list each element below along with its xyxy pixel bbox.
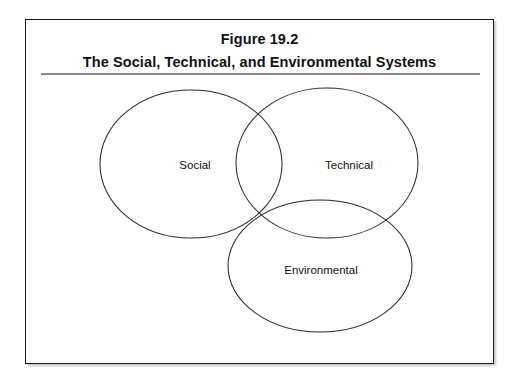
- venn-label-environmental: Environmental: [284, 264, 358, 276]
- figure-canvas: Figure 19.2 The Social, Technical, and E…: [0, 0, 522, 386]
- venn-diagram: Social Technical Environmental: [25, 19, 494, 364]
- venn-label-technical: Technical: [325, 159, 373, 171]
- venn-label-social: Social: [179, 159, 210, 171]
